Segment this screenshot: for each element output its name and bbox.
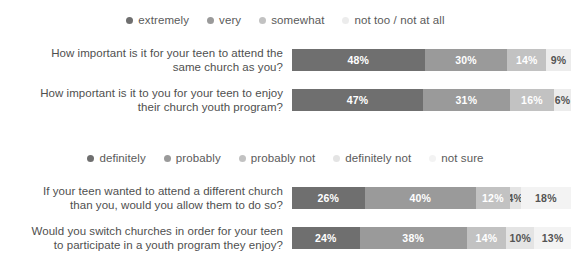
legend-importance: extremelyverysomewhatnot too / not at al… [0,14,571,26]
question-label: Would you switch churches in order for y… [0,224,292,252]
chart-group-importance: How important is it for your teen to att… [0,40,571,120]
bar-segment[interactable]: 18% [521,187,571,209]
question-label-line: If your teen wanted to attend a differen… [0,184,283,198]
chart-page: extremelyverysomewhatnot too / not at al… [0,0,571,267]
legend-item-label: extremely [138,14,189,26]
question-label-line: Would you switch churches in order for y… [0,224,283,238]
bar-segment-value: 31% [456,94,478,106]
legend-item[interactable]: very [207,14,241,26]
legend-item[interactable]: definitely not [333,152,411,164]
legend-item-label: definitely [99,152,145,164]
legend-swatch-icon [207,17,214,24]
question-label: How important is it for your teen to att… [0,46,292,74]
legend-item[interactable]: extremely [126,14,189,26]
bar-segment[interactable]: 38% [360,227,467,249]
legend-item-label: somewhat [271,14,324,26]
question-label: How important is it to you for your teen… [0,86,292,114]
chart-row: If your teen wanted to attend a differen… [0,178,571,218]
stacked-bar: 48%30%14%9% [292,49,571,71]
legend-likelihood: definitelyprobablyprobably notdefinitely… [0,152,571,164]
bar-segment[interactable]: 48% [292,49,425,71]
bar-segment[interactable]: 24% [292,227,360,249]
bar-segment[interactable]: 14% [467,227,506,249]
bar-segment-value: 12% [482,192,504,204]
bar-segment-value: 30% [455,54,477,66]
question-label-line: same church as you? [0,60,283,74]
chart-row: How important is it for your teen to att… [0,40,571,80]
legend-swatch-icon [333,155,340,162]
legend-item-label: definitely not [345,152,411,164]
legend-item[interactable]: probably not [239,152,316,164]
legend-swatch-icon [87,155,94,162]
question-label-line: How important is it for your teen to att… [0,46,283,60]
bar-area: 24%38%14%10%13% [292,218,571,258]
legend-item[interactable]: probably [164,152,221,164]
bar-segment[interactable]: 13% [534,227,571,249]
bar-segment[interactable]: 47% [292,89,423,111]
legend-swatch-icon [164,155,171,162]
bar-segment[interactable]: 31% [423,89,509,111]
bar-segment[interactable]: 16% [510,89,555,111]
bar-area: 26%40%12%4%18% [292,178,571,218]
legend-item-label: very [219,14,241,26]
chart-row: Would you switch churches in order for y… [0,218,571,258]
bar-segment[interactable]: 6% [554,89,571,111]
stacked-bar: 26%40%12%4%18% [292,187,571,209]
bar-segment-value: 9% [551,54,567,66]
legend-item[interactable]: not too / not at all [342,14,444,26]
legend-swatch-icon [126,17,133,24]
question-label-line: their church youth program? [0,100,283,114]
bar-segment[interactable]: 10% [506,227,534,249]
chart-row: How important is it to you for your teen… [0,80,571,120]
bar-segment-value: 40% [410,192,432,204]
stacked-bar: 47%31%16%6% [292,89,571,111]
bar-segment-value: 16% [521,94,543,106]
bar-segment[interactable]: 26% [292,187,365,209]
bar-segment[interactable]: 30% [425,49,508,71]
legend-item[interactable]: definitely [87,152,145,164]
bar-area: 47%31%16%6% [292,80,571,120]
legend-swatch-icon [429,155,436,162]
question-label: If your teen wanted to attend a differen… [0,184,292,212]
bar-segment[interactable]: 40% [365,187,477,209]
legend-item-label: not sure [441,152,483,164]
legend-swatch-icon [259,17,266,24]
bar-segment-value: 14% [476,232,498,244]
bar-segment-value: 13% [542,232,564,244]
bar-segment[interactable]: 12% [476,187,509,209]
bar-segment-value: 10% [509,232,531,244]
bar-segment-value: 38% [402,232,424,244]
legend-swatch-icon [342,17,349,24]
legend-swatch-icon [239,155,246,162]
question-label-line: than you, would you allow them to do so? [0,198,283,212]
bar-segment-value: 47% [347,94,369,106]
bar-segment-value: 18% [535,192,557,204]
bar-segment[interactable]: 9% [546,49,571,71]
legend-item-label: not too / not at all [354,14,444,26]
bar-segment-value: 48% [347,54,369,66]
stacked-bar: 24%38%14%10%13% [292,227,571,249]
bar-segment[interactable]: 4% [510,187,521,209]
question-label-line: to participate in a youth program they e… [0,238,283,252]
bar-segment-value: 14% [516,54,538,66]
legend-item[interactable]: somewhat [259,14,324,26]
bar-segment[interactable]: 14% [507,49,546,71]
question-label-line: How important is it to you for your teen… [0,86,283,100]
bar-segment-value: 4% [510,192,521,204]
bar-area: 48%30%14%9% [292,40,571,80]
bar-segment-value: 26% [317,192,339,204]
legend-item-label: probably [176,152,221,164]
legend-item[interactable]: not sure [429,152,483,164]
chart-group-likelihood: If your teen wanted to attend a differen… [0,178,571,258]
bar-segment-value: 24% [315,232,337,244]
legend-item-label: probably not [251,152,316,164]
bar-segment-value: 6% [555,94,571,106]
